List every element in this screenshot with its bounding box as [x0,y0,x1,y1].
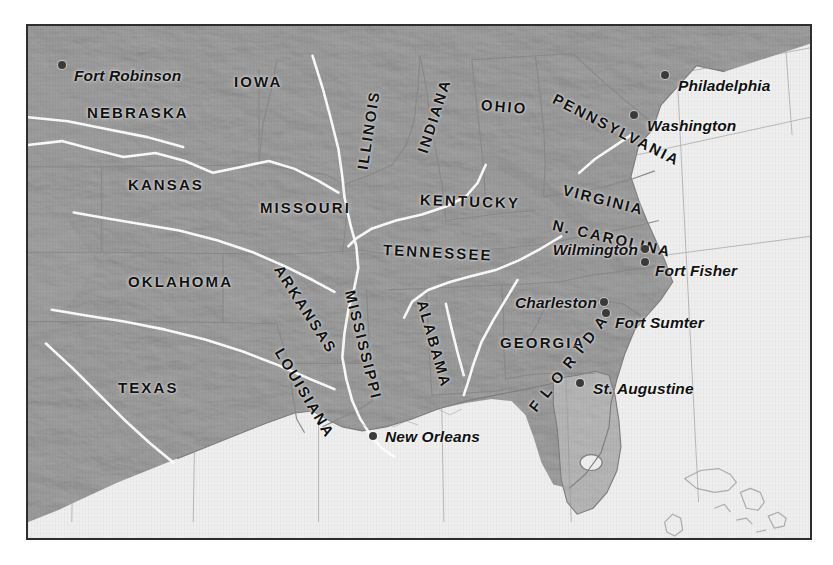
city-dot-st-augustine [576,379,584,387]
city-dot-new-orleans [369,432,377,440]
city-dot-philadelphia [661,71,669,79]
map-page: IOWANEBRASKAKANSASMISSOURIOKLAHOMATEXASI… [0,0,833,565]
city-dot-fort-sumter [602,309,610,317]
map-artwork [28,26,810,538]
city-dot-fort-fisher [641,258,649,266]
city-dot-wilmington [641,245,649,253]
city-dot-washington [630,111,638,119]
city-dot-fort-robinson [58,61,66,69]
map-canvas [28,26,810,538]
city-dot-charleston [600,298,608,306]
map-frame: IOWANEBRASKAKANSASMISSOURIOKLAHOMATEXASI… [26,24,812,540]
